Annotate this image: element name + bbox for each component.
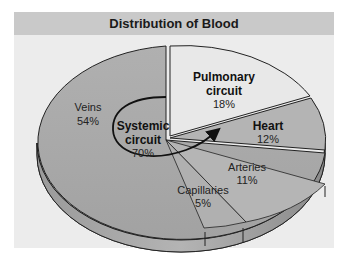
label-capillaries: Capillaries bbox=[177, 184, 229, 196]
label-pulmonary-pct: 18% bbox=[213, 98, 235, 110]
pie-chart: Veins 54% Systemic circuit 70% Pulmonary… bbox=[0, 0, 344, 271]
label-pulmonary: Pulmonary bbox=[193, 70, 255, 84]
label-veins: Veins bbox=[75, 101, 102, 113]
label-systemic: Systemic bbox=[117, 119, 170, 133]
label-arteries-pct: 11% bbox=[236, 174, 257, 186]
label-pulmonary-2: circuit bbox=[206, 84, 242, 98]
label-heart: Heart bbox=[253, 119, 284, 133]
label-systemic-pct: 70% bbox=[132, 147, 154, 159]
label-capillaries-pct: 5% bbox=[195, 197, 211, 209]
label-systemic-2: circuit bbox=[125, 133, 161, 147]
label-arteries: Arteries bbox=[228, 161, 266, 173]
label-veins-pct: 54% bbox=[77, 115, 99, 127]
label-heart-pct: 12% bbox=[257, 133, 279, 145]
